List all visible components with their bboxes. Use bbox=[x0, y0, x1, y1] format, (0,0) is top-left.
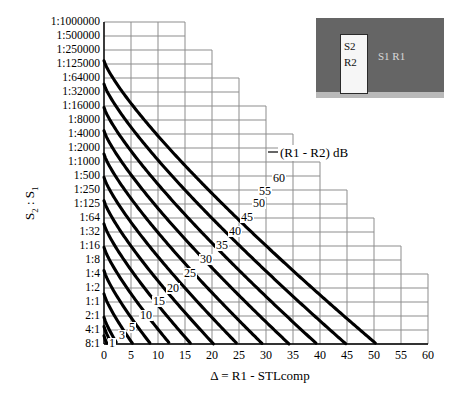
curve-label-50db: 50 bbox=[252, 198, 266, 209]
curve-label-3db: 3 bbox=[118, 330, 126, 341]
inset-receiver-label-line1: S2 bbox=[344, 40, 356, 52]
curve-label-55db: 55 bbox=[258, 186, 272, 197]
x-tick-label: 45 bbox=[333, 348, 361, 363]
x-tick-label: 55 bbox=[387, 348, 415, 363]
partition-diagram-inset: S2 R2 S1 R1 bbox=[316, 18, 444, 104]
x-tick-label: 25 bbox=[225, 348, 253, 363]
nomogram-figure: S2 : S1 1:10000001:5000001:2500001:12500… bbox=[0, 0, 450, 406]
curve-label-5db: 5 bbox=[128, 322, 136, 333]
x-axis-title: Δ = R1 - STLcomp bbox=[130, 368, 390, 384]
x-tick-label: 30 bbox=[252, 348, 280, 363]
inset-floor bbox=[316, 92, 444, 98]
curve-label-35db: 35 bbox=[215, 240, 229, 251]
x-tick-label: 10 bbox=[144, 348, 172, 363]
x-tick-label: 40 bbox=[306, 348, 334, 363]
curve-label-1db: 1 bbox=[108, 338, 116, 349]
legend-title: (R1 - R2) dB bbox=[278, 145, 350, 161]
x-tick-label: 15 bbox=[171, 348, 199, 363]
inset-source-label: S1 R1 bbox=[378, 50, 405, 62]
inset-receiver-label-line2: R2 bbox=[344, 56, 357, 68]
curve-label-15db: 15 bbox=[152, 296, 166, 307]
x-tick-label: 5 bbox=[117, 348, 145, 363]
curve-label-10db: 10 bbox=[139, 310, 153, 321]
curve-label-25db: 25 bbox=[183, 268, 197, 279]
x-tick-label: 20 bbox=[198, 348, 226, 363]
x-tick-label: 35 bbox=[279, 348, 307, 363]
curve-label-20db: 20 bbox=[166, 283, 180, 294]
x-tick-label: 0 bbox=[90, 348, 118, 363]
curve-label-40db: 40 bbox=[228, 226, 242, 237]
curve-45db bbox=[104, 131, 289, 344]
curve-50db bbox=[104, 107, 316, 343]
curve-label-30db: 30 bbox=[199, 254, 213, 265]
x-tick-label: 50 bbox=[360, 348, 388, 363]
curve-label-45db: 45 bbox=[240, 212, 254, 223]
x-tick-label: 60 bbox=[414, 348, 442, 363]
curve-label-60db: 60 bbox=[272, 173, 286, 184]
